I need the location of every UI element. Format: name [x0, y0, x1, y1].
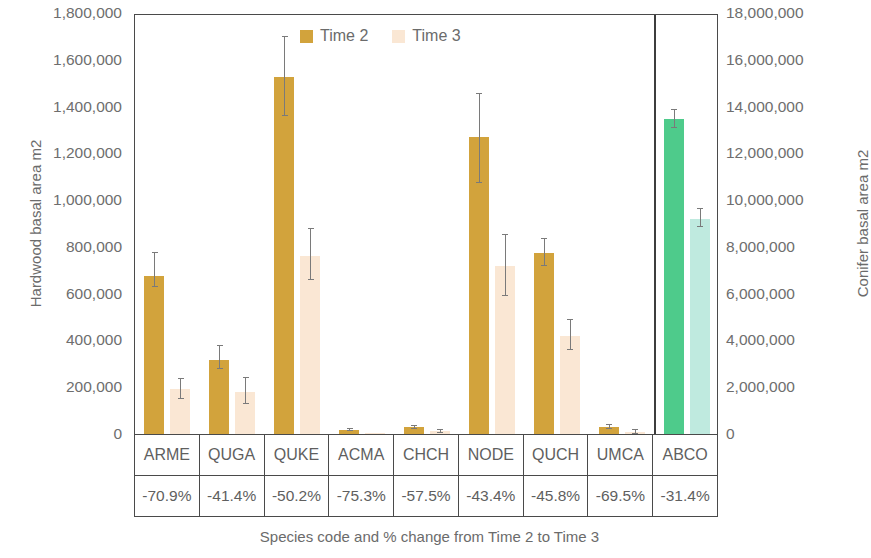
percent-change-quga: -41.4%	[200, 476, 264, 517]
y-tick-right-0: 0	[726, 427, 856, 441]
percent-change-node: -43.4%	[459, 476, 523, 517]
y-tick-left-7: 1,400,000	[4, 100, 122, 114]
y-tick-left-2: 400,000	[4, 333, 122, 347]
bar-group-acma	[330, 15, 395, 434]
percent-change-quch: -45.8%	[524, 476, 588, 517]
y-axis-left-ticks: 0200,000400,000600,000800,0001,000,0001,…	[0, 0, 122, 558]
category-label-umca: UMCA	[588, 435, 652, 476]
error-bar-quga-time-2	[219, 345, 220, 368]
bar-acma-time-3[interactable]	[365, 433, 385, 434]
category-column-quke: QUKE-50.2%	[264, 435, 329, 517]
category-column-arme: ARME-70.9%	[134, 435, 199, 517]
axis-separator-line	[654, 15, 656, 434]
category-label-arme: ARME	[135, 435, 199, 476]
y-tick-left-9: 1,800,000	[4, 6, 122, 20]
error-bar-abco-time-2	[674, 109, 675, 128]
category-column-umca: UMCA-69.5%	[587, 435, 652, 517]
category-column-quch: QUCH-45.8%	[523, 435, 588, 517]
error-bar-chch-time-2	[414, 425, 415, 429]
category-label-acma: ACMA	[329, 435, 393, 476]
category-label-quga: QUGA	[200, 435, 264, 476]
bar-abco-time-2[interactable]	[664, 119, 684, 434]
bar-quch-time-2[interactable]	[534, 253, 554, 434]
percent-change-quke: -50.2%	[265, 476, 329, 517]
y-tick-left-8: 1,600,000	[4, 53, 122, 67]
y-tick-right-8: 16,000,000	[726, 53, 856, 67]
error-bar-arme-time-3	[180, 378, 181, 399]
legend-swatch-icon-0	[300, 30, 313, 43]
percent-change-abco: -31.4%	[653, 476, 717, 517]
error-bar-chch-time-3	[440, 429, 441, 432]
y-tick-left-0: 0	[4, 427, 122, 441]
error-bar-acma-time-2	[349, 428, 350, 431]
category-label-node: NODE	[459, 435, 523, 476]
bar-group-quke	[265, 15, 330, 434]
category-column-acma: ACMA-75.3%	[328, 435, 393, 517]
legend-label-1: Time 3	[412, 27, 460, 45]
error-bar-quke-time-2	[284, 36, 285, 116]
chart-legend: Time 2Time 3	[300, 27, 461, 45]
y-tick-right-3: 6,000,000	[726, 287, 856, 301]
error-bar-umca-time-3	[635, 429, 636, 433]
y-tick-right-6: 12,000,000	[726, 146, 856, 160]
y-tick-left-4: 800,000	[4, 240, 122, 254]
bar-group-quch	[524, 15, 589, 434]
y-tick-left-1: 200,000	[4, 380, 122, 394]
category-column-quga: QUGA-41.4%	[199, 435, 264, 517]
error-bar-abco-time-3	[700, 208, 701, 227]
bar-group-node	[459, 15, 524, 434]
category-axis-table: ARME-70.9%QUGA-41.4%QUKE-50.2%ACMA-75.3%…	[134, 435, 718, 517]
bar-quke-time-3[interactable]	[300, 256, 320, 434]
legend-item-time-2[interactable]: Time 2	[300, 27, 368, 45]
percent-change-acma: -75.3%	[329, 476, 393, 517]
legend-swatch-icon-1	[392, 30, 405, 43]
legend-item-time-3[interactable]: Time 3	[392, 27, 460, 45]
bar-group-chch	[395, 15, 460, 434]
y-tick-right-4: 8,000,000	[726, 240, 856, 254]
y-tick-right-9: 18,000,000	[726, 6, 856, 20]
y-tick-left-6: 1,200,000	[4, 146, 122, 160]
bar-group-umca	[589, 15, 654, 434]
error-bar-quke-time-3	[310, 228, 311, 279]
y-tick-right-1: 2,000,000	[726, 380, 856, 394]
category-column-node: NODE-43.4%	[458, 435, 523, 517]
y-tick-left-3: 600,000	[4, 287, 122, 301]
error-bar-umca-time-2	[609, 424, 610, 429]
percent-change-chch: -57.5%	[394, 476, 458, 517]
error-bar-quch-time-3	[570, 319, 571, 349]
bar-group-arme	[135, 15, 200, 434]
bar-arme-time-2[interactable]	[144, 276, 164, 434]
bar-group-abco	[654, 15, 719, 434]
y-tick-right-2: 4,000,000	[726, 333, 856, 347]
error-bar-node-time-2	[479, 93, 480, 183]
percent-change-umca: -69.5%	[588, 476, 652, 517]
category-label-quke: QUKE	[265, 435, 329, 476]
error-bar-arme-time-2	[154, 252, 155, 287]
bar-quga-time-2[interactable]	[209, 360, 229, 434]
percent-change-arme: -70.9%	[135, 476, 199, 517]
error-bar-quga-time-3	[245, 377, 246, 404]
error-bar-node-time-3	[505, 234, 506, 296]
bar-abco-time-3[interactable]	[690, 219, 710, 434]
y-tick-left-5: 1,000,000	[4, 193, 122, 207]
category-column-abco: ABCO-31.4%	[652, 435, 718, 517]
legend-label-0: Time 2	[320, 27, 368, 45]
error-bar-quch-time-2	[544, 238, 545, 266]
bar-quch-time-3[interactable]	[560, 336, 580, 434]
plot-inner	[135, 15, 717, 434]
bar-quke-time-2[interactable]	[274, 77, 294, 434]
bar-group-quga	[200, 15, 265, 434]
category-label-abco: ABCO	[653, 435, 717, 476]
y-axis-right-ticks: 02,000,0004,000,0006,000,0008,000,00010,…	[726, 0, 859, 558]
plot-area	[134, 14, 718, 435]
y-tick-right-7: 14,000,000	[726, 100, 856, 114]
category-label-quch: QUCH	[524, 435, 588, 476]
category-column-chch: CHCH-57.5%	[393, 435, 458, 517]
category-label-chch: CHCH	[394, 435, 458, 476]
y-tick-right-5: 10,000,000	[726, 193, 856, 207]
